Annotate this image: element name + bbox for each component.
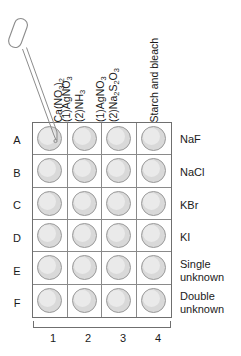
well-c4[interactable] [141,191,166,216]
row-label-double-unknown-line-2: unknown [180,303,224,316]
well-f4[interactable] [141,288,166,313]
well-cell-e1[interactable] [33,252,68,284]
row-label-kbr: KBr [180,199,198,212]
well-cell-a1[interactable] [33,123,68,155]
well-cell-f3[interactable] [102,285,137,317]
row-label-double-unknown: Double unknown [180,290,224,315]
well-b3[interactable] [106,158,131,183]
well-e3[interactable] [106,255,131,280]
well-cell-c3[interactable] [102,188,137,220]
row-label-double-unknown-line-1: Double [180,290,215,302]
well-b1[interactable] [37,158,62,183]
row-letter-a: A [10,134,24,146]
well-e1[interactable] [37,255,62,280]
well-cell-c4[interactable] [137,188,172,220]
column-number-1: 1 [42,332,64,345]
column-number-2: 2 [77,332,99,345]
well-cell-d1[interactable] [33,220,68,252]
well-b4[interactable] [141,158,166,183]
well-c2[interactable] [72,191,97,216]
well-a3[interactable] [106,126,131,151]
row-label-ki-line-1: KI [180,231,190,243]
row-label-nacl-line-1: NaCl [180,166,204,178]
column-number-3: 3 [112,332,134,345]
row-letter-d: D [10,232,24,244]
well-c3[interactable] [106,191,131,216]
column-bracket [33,321,171,328]
well-c1[interactable] [37,191,62,216]
well-a2[interactable] [72,126,97,151]
row-label-single-unknown-line-1: Single [180,258,211,270]
well-a1[interactable] [37,126,62,151]
well-cell-b4[interactable] [137,155,172,187]
column-number-4: 4 [147,332,169,345]
column-header-3-line-2: (2)Na2S2O3 [108,68,121,122]
column-header-3-line-1: (1)AgNO3 [95,68,108,122]
well-cell-b3[interactable] [102,155,137,187]
row-letter-c: C [10,199,24,211]
row-label-single-unknown-line-2: unknown [180,271,224,284]
well-cell-c2[interactable] [68,188,103,220]
row-letter-b: B [10,167,24,179]
row-label-single-unknown: Single unknown [180,258,224,283]
well-cell-b1[interactable] [33,155,68,187]
dropper-bulb-icon [7,17,29,50]
well-e4[interactable] [141,255,166,280]
spot-plate-figure: Ca(NO3)2 (1)AgNO3 (2)NH3 (1)AgNO3 (2)Na2… [0,0,241,356]
column-header-4-line-1: Starch and bleach [149,37,161,122]
well-f3[interactable] [106,288,131,313]
well-cell-a3[interactable] [102,123,137,155]
column-header-3: (1)AgNO3 (2)Na2S2O3 [95,68,120,122]
well-grid [33,123,171,317]
well-a4[interactable] [141,126,166,151]
column-header-2: (1)AgNO3 (2)NH3 [61,76,86,122]
row-letter-e: E [10,265,24,277]
well-f1[interactable] [37,288,62,313]
column-header-2-line-2: (2)NH3 [74,76,87,122]
well-cell-c1[interactable] [33,188,68,220]
well-cell-e2[interactable] [68,252,103,284]
row-letter-f: F [10,297,24,309]
well-cell-a2[interactable] [68,123,103,155]
well-cell-a4[interactable] [137,123,172,155]
row-label-kbr-line-1: KBr [180,199,198,211]
spot-plate [32,122,172,318]
well-d2[interactable] [72,223,97,248]
column-header-4: Starch and bleach [149,37,161,122]
row-label-naf: NaF [180,133,201,146]
well-cell-d4[interactable] [137,220,172,252]
well-f2[interactable] [72,288,97,313]
well-cell-d3[interactable] [102,220,137,252]
well-d1[interactable] [37,223,62,248]
well-d3[interactable] [106,223,131,248]
well-cell-d2[interactable] [68,220,103,252]
well-d4[interactable] [141,223,166,248]
row-label-nacl: NaCl [180,166,204,179]
well-cell-f4[interactable] [137,285,172,317]
well-cell-f2[interactable] [68,285,103,317]
well-cell-e4[interactable] [137,252,172,284]
well-cell-e3[interactable] [102,252,137,284]
well-b2[interactable] [72,158,97,183]
column-header-2-line-1: (1)AgNO3 [61,76,74,122]
well-cell-f1[interactable] [33,285,68,317]
well-e2[interactable] [72,255,97,280]
row-label-naf-line-1: NaF [180,133,201,145]
well-cell-b2[interactable] [68,155,103,187]
row-label-ki: KI [180,231,190,244]
